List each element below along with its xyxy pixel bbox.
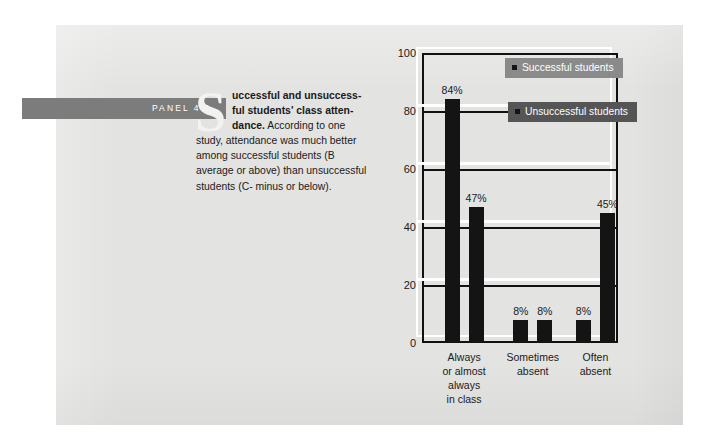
- plot-area: 02040608010084%47%Alwaysor almostalwaysi…: [422, 53, 618, 343]
- y-axis-tick-label: 40: [404, 221, 416, 233]
- category-label-line: Often: [583, 351, 609, 363]
- panel-caption: S uccessful and unsuccess- ful students'…: [196, 88, 372, 194]
- bar: [576, 320, 591, 343]
- y-axis-tick-label: 60: [404, 163, 416, 175]
- bar-value-label: 47%: [466, 192, 487, 204]
- caption-bold-line-3-and-body: dance. According to one study, attendanc…: [196, 118, 372, 193]
- bar: [600, 213, 615, 344]
- bar-value-label: 45%: [597, 198, 618, 210]
- bar: [469, 207, 484, 343]
- bar: [537, 320, 552, 343]
- category-label-line: in class: [447, 393, 482, 405]
- bar-value-label: 84%: [442, 84, 463, 96]
- legend-label-unsuccessful: Unsuccessful students: [525, 106, 628, 117]
- y-axis-tick-label: 80: [404, 105, 416, 117]
- x-axis-category-label: Alwaysor almostalwaysin class: [443, 350, 486, 406]
- bar: [445, 99, 460, 343]
- category-label-line: or almost: [443, 365, 486, 377]
- caption-bold-line-1: uccessful and unsuccess-: [196, 88, 372, 103]
- category-label-line: Sometimes: [506, 351, 559, 363]
- x-axis-category-label: Oftenabsent: [580, 350, 612, 378]
- caption-bold-line-3: dance.: [232, 120, 265, 131]
- legend-swatch-icon: [515, 109, 520, 114]
- bar: [513, 320, 528, 343]
- category-label-line: Always: [447, 351, 480, 363]
- figure-screenshot: PANEL 4.1 S uccessful and unsuccess- ful…: [0, 0, 713, 443]
- y-axis-tick-label: 20: [404, 279, 416, 291]
- category-label-line: absent: [517, 365, 549, 377]
- legend-label-successful: Successful students: [522, 62, 614, 73]
- bar-value-label: 8%: [513, 305, 528, 317]
- category-label-line: absent: [580, 365, 612, 377]
- x-axis-category-label: Sometimesabsent: [506, 350, 559, 378]
- bar-value-label: 8%: [576, 305, 591, 317]
- y-axis-tick-label: 0: [410, 337, 416, 349]
- legend-item-successful-students: Successful students: [505, 58, 623, 78]
- category-label-line: always: [448, 379, 480, 391]
- y-axis-tick-label: 100: [398, 47, 416, 59]
- legend-item-unsuccessful-students: Unsuccessful students: [508, 102, 637, 122]
- caption-body-text: According to one study, attendance was m…: [196, 120, 366, 191]
- bar-value-label: 8%: [537, 305, 552, 317]
- caption-bold-line-2: ful students' class atten-: [196, 103, 372, 118]
- bar-chart: 02040608010084%47%Alwaysor almostalwaysi…: [380, 42, 638, 387]
- legend-swatch-icon: [512, 65, 517, 70]
